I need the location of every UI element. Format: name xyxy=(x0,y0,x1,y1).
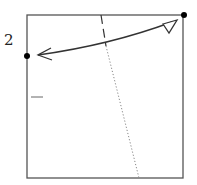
origami-diagram: 2 xyxy=(0,0,197,185)
left-reference-dot xyxy=(24,53,30,59)
step-number-label: 2 xyxy=(4,31,14,49)
fold-arrow-curve xyxy=(38,22,172,55)
paper-square xyxy=(27,15,183,178)
arrowhead-right-icon xyxy=(163,20,177,33)
crease-dotted-line xyxy=(106,46,139,178)
valley-fold-line xyxy=(101,15,106,46)
top-right-corner-dot xyxy=(181,12,187,18)
